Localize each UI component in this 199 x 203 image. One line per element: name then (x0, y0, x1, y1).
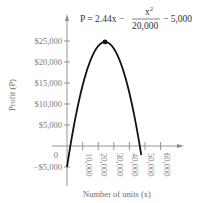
x-tick-label: 10,000 (84, 153, 94, 176)
y-tick-label: $20,000 (34, 57, 62, 67)
y-tick-label: $25,000 (34, 36, 62, 46)
x-tick-label: 60,000 (162, 153, 172, 176)
equation-denominator: 20,000 (132, 21, 158, 31)
profit-curve (67, 42, 141, 167)
x-tick-label: 40,000 (130, 153, 140, 176)
y-axis-label: Profit (P) (7, 79, 17, 111)
equation-lhs: P = 2.44x − (80, 14, 124, 24)
equation-rhs: − 5,000 (163, 14, 192, 24)
x-tick-label: 30,000 (115, 153, 125, 176)
y-tick-label: −$5,000 (34, 162, 62, 172)
maximum-point (103, 40, 108, 45)
x-axis-label: Number of units (x) (83, 189, 151, 199)
x-axis-arrow-icon (177, 144, 184, 148)
x-tick-label: 20,000 (99, 153, 109, 176)
equation-numerator: x2 (145, 5, 153, 17)
x-ticks: 10,00020,00030,00040,00050,00060,000 (83, 142, 172, 176)
equation: P = 2.44x − x2 20,000 − 5,000 (80, 5, 192, 31)
y-tick-label: 0 (54, 150, 58, 160)
profit-chart: $25,000$20,000$15,000$10,000$5,0000−$5,0… (0, 0, 199, 203)
y-ticks: $25,000$20,000$15,000$10,000$5,0000−$5,0… (34, 36, 70, 172)
y-tick-label: $15,000 (34, 78, 62, 88)
x-tick-label: 50,000 (146, 153, 156, 176)
y-axis-arrow-icon (65, 14, 69, 21)
y-tick-label: $10,000 (34, 99, 62, 109)
y-tick-label: $5,000 (39, 120, 62, 130)
